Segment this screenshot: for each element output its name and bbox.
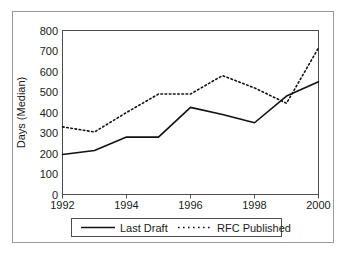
series-line-last-draft [63,82,319,155]
x-tick-label: 1998 [242,199,266,211]
plot-frame [63,31,319,195]
y-tick-label: 800 [40,25,58,37]
legend-label-last-draft: Last Draft [120,222,168,234]
x-tick-label: 1992 [50,199,74,211]
line-chart: 800 700 600 500 400 300 200 100 0 Days (… [0,0,347,255]
legend-label-rfc-published: RFC Published [217,222,291,234]
y-tick-label: 400 [40,107,58,119]
y-tick-label: 100 [40,168,58,180]
x-tick-marks [63,195,319,199]
data-series-group [63,48,319,155]
x-tick-label: 1994 [114,199,138,211]
y-tick-label: 500 [40,86,58,98]
y-tick-label: 300 [40,127,58,139]
y-axis-title: Days (Median) [15,77,27,149]
figure-container: 800 700 600 500 400 300 200 100 0 Days (… [0,0,347,255]
x-tick-labels: 1992 1994 1996 1998 2000 [50,199,330,211]
x-tick-label: 1996 [178,199,202,211]
y-tick-label: 700 [40,45,58,57]
y-axis: 800 700 600 500 400 300 200 100 0 Days (… [15,25,58,201]
plot-area [63,31,319,195]
legend: Last Draft RFC Published [72,219,291,237]
series-line-rfc-published [63,48,319,132]
x-tick-label: 2000 [306,199,330,211]
y-tick-label: 600 [40,66,58,78]
y-tick-label: 200 [40,148,58,160]
x-axis: 1992 1994 1996 1998 2000 [50,195,330,212]
y-tick-labels: 800 700 600 500 400 300 200 100 0 [40,25,58,201]
